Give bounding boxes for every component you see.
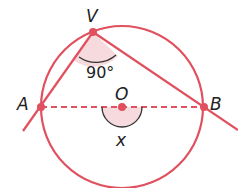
- point-b: [200, 103, 208, 111]
- label-angle-o: x: [115, 130, 127, 150]
- label-a: A: [16, 94, 29, 114]
- point-a: [37, 103, 45, 111]
- point-o: [118, 103, 126, 111]
- line-va: [23, 32, 93, 131]
- label-o: O: [115, 84, 128, 104]
- point-v: [89, 28, 97, 36]
- label-b: B: [210, 94, 222, 114]
- circle-diagram: V A B O 90° x: [0, 0, 238, 188]
- label-v: V: [86, 6, 99, 26]
- label-angle-v: 90°: [86, 63, 114, 82]
